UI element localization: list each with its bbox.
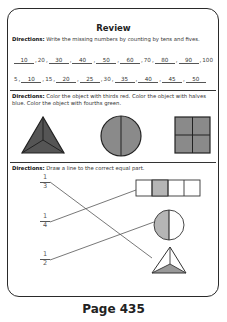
circle-halves-shape[interactable] bbox=[101, 116, 141, 156]
match-line-fourth-to-bar bbox=[50, 190, 136, 222]
page-number: Page 435 bbox=[0, 302, 227, 316]
shapes-layer bbox=[0, 0, 227, 322]
match-line-half-to-circle bbox=[50, 222, 154, 260]
square-fourths-shape[interactable] bbox=[175, 117, 210, 153]
triangle-thirds-shape[interactable] bbox=[22, 117, 64, 153]
bar-fourths-shape[interactable] bbox=[136, 180, 200, 196]
circle-half-shaded-shape[interactable] bbox=[154, 210, 184, 240]
triangle-third-shaded-shape[interactable] bbox=[152, 247, 186, 273]
